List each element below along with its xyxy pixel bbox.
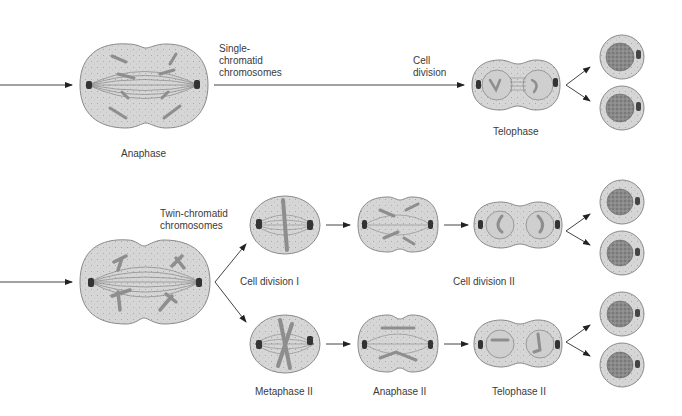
- division-i-metaphase-cell: [250, 196, 320, 254]
- meiosis-anaphase-i-cell: [80, 240, 210, 324]
- anaphase-ii-cell: [358, 315, 438, 372]
- label-cell-division: Cell division: [413, 55, 446, 79]
- daughter-cell-top-1: [600, 35, 644, 79]
- label-cell-division-ii: Cell division II: [453, 276, 515, 288]
- telophase-ii-cell: [474, 320, 562, 367]
- daughter-cell-bot-2: [600, 343, 644, 387]
- label-anaphase-ii: Anaphase II: [373, 386, 426, 398]
- label-telophase: Telophase: [493, 126, 539, 138]
- metaphase-ii-cell: [250, 315, 320, 373]
- label-metaphase-ii: Metaphase II: [255, 386, 313, 398]
- division-ii-telophase-cell-upper: [474, 202, 562, 248]
- label-single-chromatid: Single- chromatid chromosomes: [219, 43, 282, 79]
- daughter-cell-top-2: [600, 86, 644, 130]
- division-ii-anaphase-cell-upper: [358, 197, 438, 252]
- label-twin-chromatid: Twin-chromatid chromosomes: [160, 208, 228, 232]
- telophase-cell: [472, 60, 560, 110]
- daughter-cell-mid-1: [600, 180, 644, 224]
- label-telophase-ii: Telophase II: [492, 386, 546, 398]
- anaphase-cell: [80, 44, 208, 128]
- daughter-cell-mid-2: [600, 231, 644, 275]
- daughter-cell-bot-1: [600, 292, 644, 336]
- label-cell-division-i: Cell division I: [240, 276, 299, 288]
- cell-division-diagram: [0, 0, 682, 416]
- label-anaphase: Anaphase: [121, 148, 166, 160]
